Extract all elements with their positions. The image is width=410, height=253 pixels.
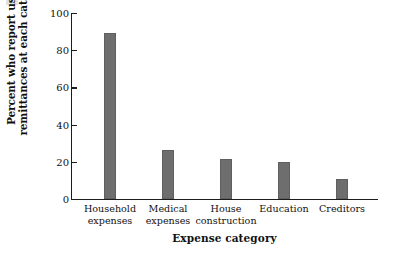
y-tick-label-0: 0: [9, 194, 69, 205]
y-tick-label-40: 40: [9, 119, 69, 130]
y-tick-100: [72, 13, 77, 14]
x-axis-title: Expense category: [71, 232, 378, 244]
y-tick-label-60: 60: [9, 82, 69, 93]
y-tick-80: [72, 50, 77, 51]
y-tick-60: [72, 87, 77, 88]
bar-medical-expenses: [162, 150, 175, 199]
bar-house-construction: [220, 159, 233, 199]
bar-education: [278, 162, 291, 199]
y-tick-40: [72, 125, 77, 126]
bar-household-expenses: [104, 33, 117, 199]
bar-chart-figure: Percent who report using remittances at …: [0, 0, 410, 253]
bar-creditors: [336, 179, 349, 199]
category-label-creditors: Creditors: [305, 203, 379, 215]
y-tick-label-100: 100: [9, 8, 69, 19]
y-tick-label-20: 20: [9, 156, 69, 167]
y-axis-title-text: Percent who report using remittances at …: [5, 0, 30, 136]
y-axis-line: [71, 13, 72, 200]
y-tick-20: [72, 162, 77, 163]
y-tick-0: [72, 199, 77, 200]
y-tick-label-80: 80: [9, 45, 69, 56]
